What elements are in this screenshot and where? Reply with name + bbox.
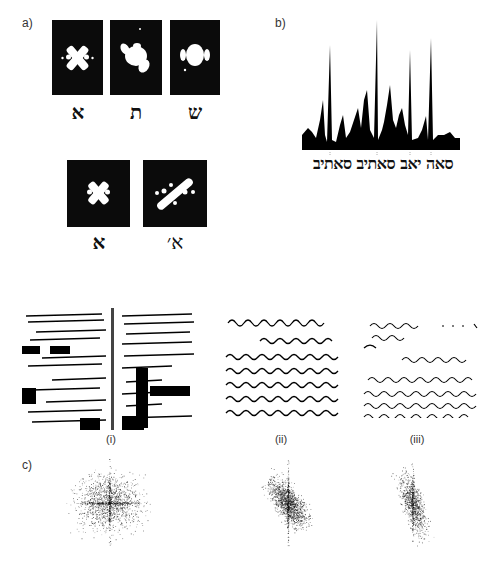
sub-label-i: (i)	[96, 433, 126, 445]
sub-label-iii: (iii)	[402, 433, 432, 445]
spectrum-image-tav	[110, 20, 162, 95]
panel-b-label: b)	[275, 16, 286, 30]
sub-label-ii: (ii)	[266, 433, 296, 445]
hebrew-letter-alef: א	[60, 100, 96, 124]
panel-a-label: a)	[22, 16, 33, 30]
handwritten-letter-image-iii	[362, 318, 482, 418]
spectrum-image-alef-variant	[143, 160, 207, 227]
blob-pattern-icon	[110, 20, 162, 95]
spectrum-image-alef-2	[67, 160, 130, 227]
diagonal-dotted-pattern-icon	[143, 160, 207, 227]
spectrum-image-alef	[52, 20, 103, 95]
x-cross-pattern-icon	[52, 20, 103, 95]
fourier-spectrum-i	[62, 453, 157, 553]
x-cross-pattern-icon	[67, 160, 130, 227]
round-blob-pattern-icon	[170, 20, 220, 95]
hebrew-letter-tav: ת	[118, 100, 154, 124]
correlation-peaks-plot	[300, 20, 462, 155]
spectrum-image-shin	[170, 20, 220, 95]
fourier-spectrum-ii	[248, 453, 328, 553]
manuscript-image-i	[22, 308, 197, 430]
panel-c-label: c)	[22, 458, 32, 472]
handwritten-letter-image-ii	[224, 313, 344, 418]
hebrew-letter-alef-2: א	[81, 230, 117, 254]
hebrew-text-string: סאה יאב סאתיב סאתיב	[298, 154, 468, 173]
fourier-spectrum-iii	[375, 453, 450, 553]
hebrew-letter-shin: ש	[177, 100, 213, 124]
hebrew-letter-alef-variant: א׳	[157, 230, 193, 254]
